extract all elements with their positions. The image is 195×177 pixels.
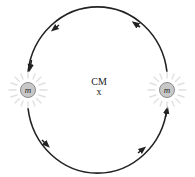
- arrow-icon: [54, 25, 59, 29]
- orbit-lower-arc: [28, 108, 167, 173]
- binary-star-diagram: m m: [0, 0, 195, 177]
- mass-label-left: m: [25, 85, 32, 95]
- center-of-mass-marker: x: [97, 86, 102, 97]
- star-left: m: [9, 72, 47, 108]
- arrow-icon: [138, 149, 143, 153]
- orbit-upper-arc: [28, 7, 167, 72]
- arrow-icon: [166, 110, 168, 117]
- star-right: m: [148, 72, 186, 108]
- arrow-icon: [135, 24, 140, 28]
- mass-label-right: m: [164, 85, 171, 95]
